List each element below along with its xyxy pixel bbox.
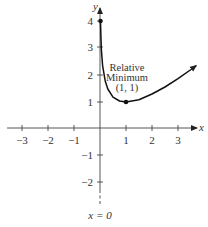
svg-text:1: 1 (123, 134, 129, 146)
svg-text:4: 4 (88, 15, 94, 27)
relative-minimum-annotation: Relative Minimum (1, 1) (106, 62, 148, 94)
svg-text:2: 2 (149, 134, 155, 146)
svg-text:−1: −1 (81, 149, 93, 161)
svg-text:2: 2 (88, 69, 94, 81)
x-tick-labels: −3 −2 −1 1 2 3 (16, 134, 181, 146)
svg-text:−2: −2 (81, 176, 93, 188)
x-axis-label: x (198, 121, 204, 133)
svg-text:(1, 1): (1, 1) (116, 82, 139, 94)
svg-text:−3: −3 (16, 134, 28, 146)
svg-text:3: 3 (175, 134, 181, 146)
svg-text:−2: −2 (42, 134, 54, 146)
svg-text:−1: −1 (68, 134, 80, 146)
relative-minimum-point (124, 100, 129, 105)
asymptote-label: x = 0 (87, 209, 112, 221)
y-axis-label: y (92, 0, 98, 12)
svg-text:1: 1 (88, 96, 94, 108)
y-tick-labels: 4 3 2 1 −1 −2 (81, 15, 93, 188)
svg-text:3: 3 (88, 41, 94, 53)
start-point (98, 19, 102, 23)
chart: x y −3 −2 −1 1 2 3 4 3 2 1 −1 −2 (0, 0, 208, 227)
